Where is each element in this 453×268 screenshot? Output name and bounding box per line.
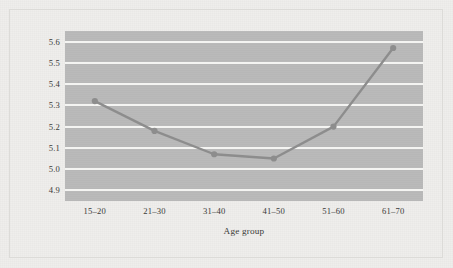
y-axis-tick-label: 5.0: [38, 164, 60, 174]
plot-area: [65, 31, 423, 201]
x-axis-tick-labels: 15–2021–3031–4041–5051–6061–70: [65, 206, 423, 220]
x-axis-tick-label: 41–50: [244, 206, 304, 216]
data-point-marker: [92, 98, 98, 104]
x-axis-tick-label: 31–40: [184, 206, 244, 216]
y-axis-tick-label: 5.1: [38, 143, 60, 153]
y-axis-tick-label: 5.4: [38, 79, 60, 89]
y-axis-tick-labels: 4.95.05.15.25.35.45.55.6: [36, 31, 60, 201]
y-axis-tick-label: 4.9: [38, 185, 60, 195]
data-point-marker: [390, 45, 396, 51]
y-axis-tick-label: 5.2: [38, 122, 60, 132]
data-point-marker: [211, 151, 217, 157]
y-axis-tick-label: 5.6: [38, 37, 60, 47]
y-axis-tick-label: 5.5: [38, 58, 60, 68]
figure-page: Average life satisfaction score 4.95.05.…: [0, 0, 453, 268]
line-series: [65, 31, 423, 201]
data-point-marker: [271, 155, 277, 161]
data-point-marker: [151, 128, 157, 134]
x-axis-tick-label: 61–70: [363, 206, 423, 216]
x-axis-tick-label: 15–20: [65, 206, 125, 216]
y-axis-tick-label: 5.3: [38, 100, 60, 110]
x-axis-tick-label: 21–30: [125, 206, 185, 216]
data-point-marker: [330, 124, 336, 130]
x-axis-tick-label: 51–60: [304, 206, 364, 216]
series-line: [95, 48, 393, 159]
x-axis-title-label: Age group: [65, 226, 423, 236]
